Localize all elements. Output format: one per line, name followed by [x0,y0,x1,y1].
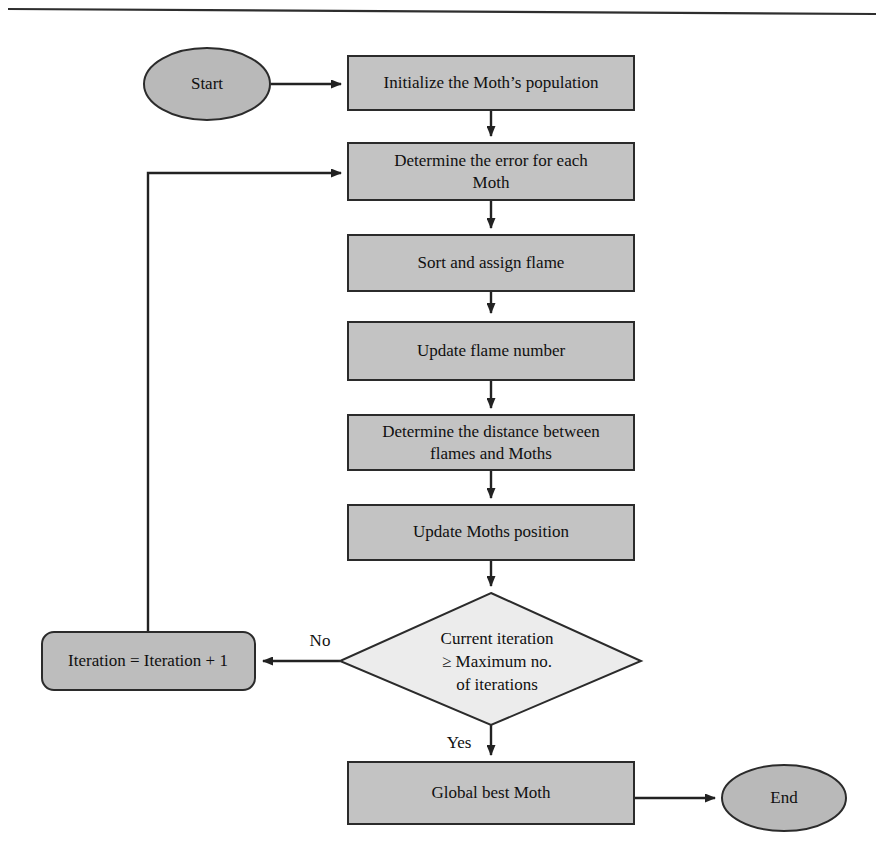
node-start[interactable]: Start [144,48,270,120]
node-iteration-increment[interactable]: Iteration = Iteration + 1 [42,632,255,690]
node-sort-assign[interactable]: Sort and assign flame [348,235,634,291]
node-initialize[interactable]: Initialize the Moth’s population [348,56,634,110]
sort-assign-label: Sort and assign flame [418,253,565,272]
node-determine-distance[interactable]: Determine the distance between flames an… [348,415,634,470]
determine-distance-label-line2: flames and Moths [430,444,552,463]
global-best-label: Global best Moth [432,783,551,802]
determine-distance-label-line1: Determine the distance between [382,422,600,441]
update-flame-number-label: Update flame number [417,341,566,360]
node-global-best[interactable]: Global best Moth [348,762,634,824]
edge-label-yes: Yes [447,733,472,752]
initialize-label: Initialize the Moth’s population [384,73,599,92]
top-rule [8,9,876,14]
decision-label-line2: ≥ Maximum no. [442,652,552,671]
node-decision[interactable]: Current iteration ≥ Maximum no. of itera… [340,593,641,725]
determine-error-label-line1: Determine the error for each [394,151,588,170]
decision-label-line1: Current iteration [441,629,554,648]
start-label: Start [191,74,223,93]
node-determine-error[interactable]: Determine the error for each Moth [348,143,634,200]
determine-error-label-line2: Moth [473,173,510,192]
end-label: End [770,788,798,807]
node-end[interactable]: End [722,765,846,831]
update-position-label: Update Moths position [413,522,569,541]
flowchart-svg: Start Initialize the Moth’s population D… [0,0,883,861]
edge-label-no: No [310,631,331,650]
node-update-position[interactable]: Update Moths position [348,505,634,560]
connector-iteration-to-error-loop [148,173,341,632]
flowchart-canvas: Start Initialize the Moth’s population D… [0,0,883,861]
decision-label-line3: of iterations [456,675,538,694]
node-update-flame-number[interactable]: Update flame number [348,322,634,380]
iteration-increment-label: Iteration = Iteration + 1 [68,651,228,670]
